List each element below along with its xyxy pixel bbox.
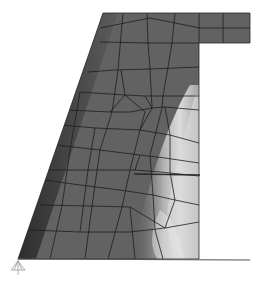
pinned-support-icon [11,259,25,275]
dam-mesh-plot [0,0,263,285]
interior-marker-line [134,174,200,175]
foundation-line [18,259,250,260]
dam-body [18,13,250,259]
fe-contour-figure [0,0,263,285]
